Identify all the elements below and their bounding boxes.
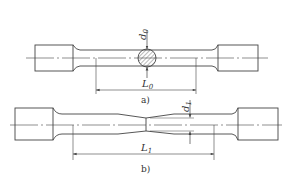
l0-label: L0 (141, 78, 154, 91)
cross-section-circle (138, 49, 156, 67)
right-grip-b (238, 108, 278, 140)
shaft-top-b (53, 108, 238, 118)
d0-label: d0 (137, 29, 150, 40)
d1-label: d1 (180, 101, 193, 112)
l1-label: L1 (140, 142, 152, 155)
shaft-bottom-b (53, 131, 238, 140)
left-grip-b (15, 108, 53, 140)
tensile-specimen-diagram: d0 L0 a) d1 L1 b) (0, 0, 290, 188)
caption-b: b) (141, 164, 150, 174)
caption-a: a) (141, 95, 150, 105)
